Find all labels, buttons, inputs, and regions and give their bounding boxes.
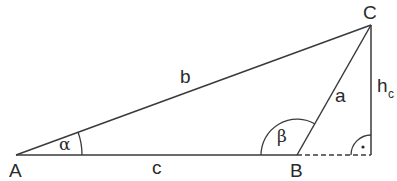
side-label-c: c <box>152 157 162 178</box>
angle-label-alpha: α <box>59 134 71 154</box>
vertex-label-b: B <box>290 160 303 181</box>
triangle-diagram: A B C b c a α β h c <box>0 0 397 181</box>
vertex-label-a: A <box>9 160 22 181</box>
right-angle-arc <box>351 135 371 155</box>
side-label-a: a <box>335 85 346 106</box>
side-label-b: b <box>180 66 191 87</box>
angle-label-beta: β <box>277 126 287 146</box>
height-label-subscript: c <box>388 87 394 101</box>
height-label: h <box>377 75 388 96</box>
angle-alpha-arc <box>78 132 82 155</box>
vertex-label-c: C <box>363 2 377 23</box>
right-angle-dot <box>361 145 364 148</box>
side-a <box>297 25 371 155</box>
